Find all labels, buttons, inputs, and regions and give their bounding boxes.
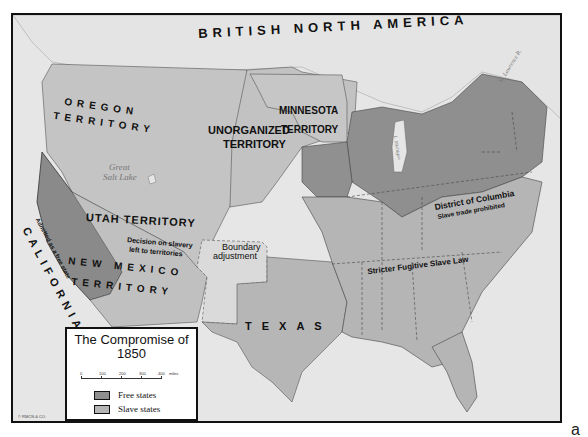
- legend-box: The Compromise of 1850 0 100 200 300 400…: [65, 327, 198, 421]
- iowa-region: [302, 142, 352, 197]
- scale-tick-200: 200: [119, 371, 126, 376]
- legend-title-line2: 1850: [67, 347, 196, 361]
- copyright-text: © RMCN & CO.: [18, 414, 46, 419]
- legend-title: The Compromise of 1850: [67, 333, 196, 361]
- label-unorganized-1: UNORGANIZED: [208, 124, 290, 136]
- label-great-salt-lake-1: Great: [109, 162, 130, 172]
- label-minnesota-1: MINNESOTA: [279, 105, 338, 116]
- legend-label-free-states: Free states: [118, 390, 156, 400]
- scale-tick-300: 300: [139, 371, 146, 376]
- scale-tick-100: 100: [99, 371, 106, 376]
- label-great-salt-lake-2: Salt Lake: [103, 172, 137, 182]
- scale-unit: miles: [169, 371, 178, 376]
- florida-region: [432, 332, 477, 412]
- label-texas: TEXAS: [245, 320, 332, 332]
- label-boundary-2: adjustment: [213, 251, 257, 261]
- legend-title-line1: The Compromise of: [67, 333, 196, 347]
- panel-letter: a: [571, 421, 580, 437]
- slave-states-swatch: [94, 405, 110, 414]
- legend-label-slave-states: Slave states: [118, 404, 160, 414]
- free-states-swatch: [94, 391, 110, 400]
- scale-bar: 0 100 200 300 400 miles: [81, 371, 177, 383]
- label-unorganized-2: TERRITORY: [223, 138, 286, 150]
